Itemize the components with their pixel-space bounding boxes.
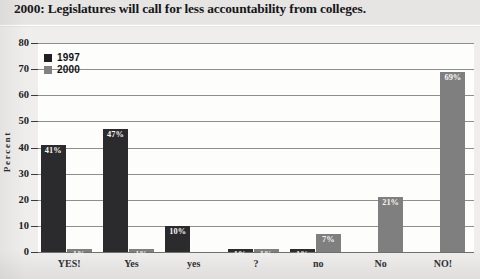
chart-title: 2000: Legislatures will call for less ac… (14, 1, 474, 17)
bar-2000-no[interactable]: 7% (316, 234, 341, 252)
y-axis-label-20: 20 (3, 194, 29, 205)
bar-value-label: 7% (322, 235, 335, 244)
y-axis-tick-10 (31, 226, 38, 227)
y-axis-tick-60 (31, 95, 38, 96)
y-axis-tick-80 (31, 43, 38, 44)
gridline-80 (38, 43, 474, 44)
x-axis-label-no: no (313, 258, 324, 269)
y-axis-tick-labels: 01020304050607080 (0, 43, 29, 253)
y-axis-label-50: 50 (3, 115, 29, 126)
y-axis-label-30: 30 (3, 168, 29, 179)
y-axis-label-60: 60 (3, 89, 29, 100)
y-axis-tick-70 (31, 69, 38, 70)
x-axis-label-No: No (374, 258, 386, 269)
bar-1997-?[interactable]: 1% (228, 249, 253, 252)
legend-label-2000: 2000 (57, 64, 80, 75)
x-axis-label-Yes: Yes (124, 258, 138, 269)
x-axis-tick-labels: YES!Yesyes?noNoNO! (38, 258, 474, 276)
bar-2000-Yes[interactable]: 1% (129, 249, 154, 252)
y-axis-label-0: 0 (3, 246, 29, 257)
y-axis-tick-20 (31, 200, 38, 201)
y-axis-tick-30 (31, 174, 38, 175)
x-axis-label-YES: YES! (58, 258, 81, 269)
y-axis-label-70: 70 (3, 63, 29, 74)
y-axis-tick-0 (31, 252, 38, 253)
legend-item-1997[interactable]: 1997 (44, 52, 118, 63)
chart-figure: Percent 01020304050607080 41%1%47%1%10%1… (0, 27, 480, 279)
x-axis-label-: ? (254, 258, 259, 269)
title-band: 2000: Legislatures will call for less ac… (0, 0, 480, 24)
chart-legend: 1997 2000 (44, 52, 118, 76)
y-axis-label-10: 10 (3, 220, 29, 231)
bar-2000-YES![interactable]: 1% (67, 249, 92, 252)
x-axis-label-yes: yes (187, 258, 200, 269)
gridline-50 (38, 121, 474, 122)
gridline-60 (38, 95, 474, 96)
bar-value-label: 69% (444, 73, 461, 82)
bar-2000-NO![interactable]: 69% (440, 72, 465, 252)
gridline-0 (38, 252, 474, 253)
y-axis-label-80: 80 (3, 37, 29, 48)
legend-swatch-icon-2000 (44, 66, 52, 74)
y-axis-tick-50 (31, 121, 38, 122)
bar-1997-yes[interactable]: 10% (165, 226, 190, 252)
bar-value-label: 41% (45, 146, 62, 155)
legend-swatch-icon-1997 (44, 54, 52, 62)
bar-value-label: 10% (169, 227, 186, 236)
bar-1997-no[interactable]: 1% (290, 249, 315, 252)
bar-1997-Yes[interactable]: 47% (103, 129, 128, 252)
legend-item-2000[interactable]: 2000 (44, 64, 118, 75)
y-axis-tick-40 (31, 148, 38, 149)
bar-value-label: 21% (382, 198, 399, 207)
x-axis-label-NO: NO! (434, 258, 452, 269)
legend-label-1997: 1997 (57, 52, 80, 63)
bar-value-label: 47% (107, 130, 124, 139)
bar-1997-YES![interactable]: 41% (41, 145, 66, 252)
bar-2000-No[interactable]: 21% (378, 197, 403, 252)
bar-2000-?[interactable]: 1% (254, 249, 279, 252)
y-axis-label-40: 40 (3, 142, 29, 153)
